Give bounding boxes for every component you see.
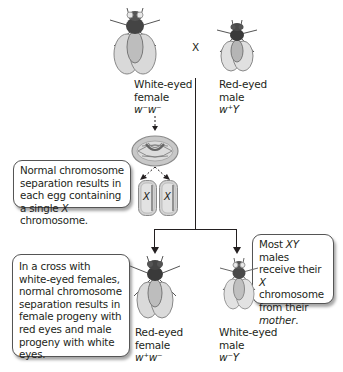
cross-result-callout: In a cross with white-eyed females, norm… <box>12 254 130 357</box>
dividing-cell-icon <box>130 134 180 168</box>
male-inheritance-callout: Most XY males receive their X chromosome… <box>252 234 334 304</box>
progeny-female-genotype: w⁺w⁻ <box>135 351 183 364</box>
parent-male-phenotype: Red-eyed <box>219 78 267 91</box>
cross-symbol: X <box>192 41 199 54</box>
egg-chromosome-label: X <box>143 191 150 204</box>
progeny-male-genotype: w⁻Y <box>219 351 277 364</box>
egg-cells: X X <box>138 180 178 216</box>
split-arrows-icon <box>136 167 174 181</box>
progeny-female-sex: female <box>135 339 183 352</box>
parent-female-label: White-eyed female w⁻w⁻ <box>134 78 192 116</box>
left-branch-line <box>154 229 155 249</box>
parent-male-sex: male <box>219 91 267 104</box>
cross-horizontal-line <box>154 229 237 230</box>
egg-chromosome-label: X <box>164 191 171 204</box>
white-eyed-male-fly-icon <box>217 256 261 312</box>
cross-vertical-line <box>195 78 196 230</box>
arrowhead-icon <box>151 247 159 254</box>
white-eyed-female-fly-icon <box>100 2 170 76</box>
progeny-female-phenotype: Red-eyed <box>135 326 183 339</box>
red-eyed-female-fly-icon <box>126 254 184 320</box>
parent-male-genotype: w⁺Y <box>219 103 267 116</box>
separation-callout: Normal chromosome separation results in … <box>13 160 131 208</box>
progeny-male-label: White-eyed male w⁻Y <box>219 326 277 364</box>
arrowhead-icon <box>233 247 241 254</box>
right-branch-line <box>236 229 237 249</box>
progeny-male-phenotype: White-eyed <box>219 326 277 339</box>
parent-female-sex: female <box>134 91 192 104</box>
progeny-male-sex: male <box>219 339 277 352</box>
progeny-female-label: Red-eyed female w⁺w⁻ <box>135 326 183 364</box>
dashed-arrow-icon <box>150 116 160 132</box>
parent-female-phenotype: White-eyed <box>134 78 192 91</box>
parent-female-genotype: w⁻w⁻ <box>134 103 192 116</box>
red-eyed-male-fly-icon <box>212 18 262 74</box>
parent-male-label: Red-eyed male w⁺Y <box>219 78 267 116</box>
